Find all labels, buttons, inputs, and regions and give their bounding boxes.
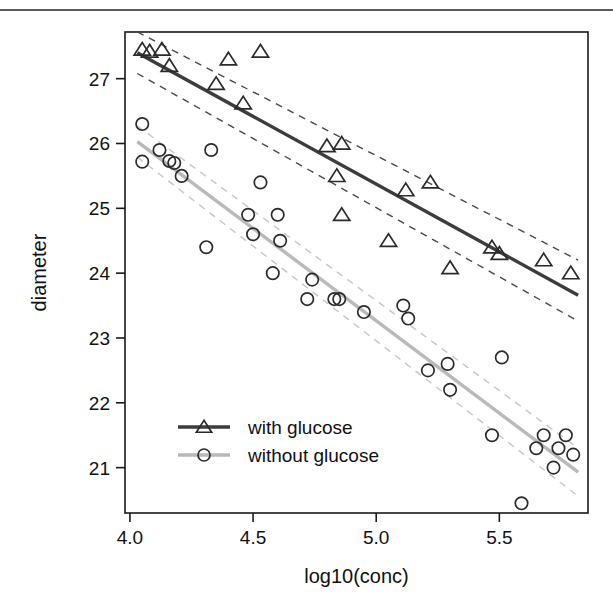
y-axis-tick-label: 23 — [89, 328, 110, 349]
y-axis-tick-label: 24 — [89, 263, 111, 284]
data-point-triangle — [334, 208, 350, 221]
confidence-band-lower — [137, 73, 578, 321]
x-axis-tick-label: 5.0 — [363, 527, 389, 548]
data-point-circle — [515, 497, 527, 509]
data-point-circle — [444, 384, 456, 396]
data-point-triangle — [334, 136, 350, 149]
data-point-triangle — [380, 234, 396, 247]
data-point-circle — [267, 267, 279, 279]
confidence-band-upper — [137, 32, 578, 260]
data-point-triangle — [220, 52, 236, 65]
data-point-triangle — [398, 183, 414, 196]
y-axis-tick-label: 25 — [89, 198, 110, 219]
data-point-circle — [402, 312, 414, 324]
data-point-circle — [136, 118, 148, 130]
data-point-triangle — [536, 253, 552, 266]
data-point-circle — [153, 144, 165, 156]
data-point-triangle — [329, 169, 345, 182]
data-point-circle — [271, 209, 283, 221]
y-axis-tick-label: 27 — [89, 69, 110, 90]
data-point-triangle — [134, 42, 150, 55]
data-point-circle — [242, 209, 254, 221]
x-axis-tick-label: 4.0 — [117, 527, 143, 548]
data-point-circle — [547, 461, 559, 473]
data-point-circle — [274, 235, 286, 247]
data-point-circle — [422, 364, 434, 376]
data-point-circle — [441, 358, 453, 370]
y-axis-tick-label: 22 — [89, 393, 110, 414]
x-axis-tick-label: 4.5 — [240, 527, 266, 548]
data-point-circle — [530, 442, 542, 454]
chart-figure: 212223242526274.04.55.05.5log10(conc)dia… — [0, 0, 613, 605]
figure-page: 212223242526274.04.55.05.5log10(conc)dia… — [0, 0, 613, 605]
data-point-circle — [397, 299, 409, 311]
data-point-triangle — [252, 44, 268, 57]
legend-label: without glucose — [247, 445, 379, 466]
data-point-triangle — [208, 77, 224, 90]
data-point-circle — [205, 144, 217, 156]
data-point-circle — [254, 176, 266, 188]
plot-frame — [125, 32, 588, 513]
data-point-triangle — [442, 261, 458, 274]
data-point-circle — [537, 429, 549, 441]
data-point-triangle — [422, 175, 438, 188]
data-point-circle — [486, 429, 498, 441]
legend-label: with glucose — [247, 417, 353, 438]
data-point-circle — [552, 442, 564, 454]
y-axis-tick-label: 21 — [89, 458, 110, 479]
x-axis-tick-label: 5.5 — [486, 527, 512, 548]
scatter-plot-svg: 212223242526274.04.55.05.5log10(conc)dia… — [0, 0, 613, 605]
data-point-triangle — [563, 266, 579, 279]
data-point-circle — [306, 273, 318, 285]
x-axis-title: log10(conc) — [304, 565, 409, 587]
data-point-circle — [301, 293, 313, 305]
data-point-circle — [200, 241, 212, 253]
y-axis-title: diameter — [28, 233, 50, 311]
y-axis-tick-label: 26 — [89, 133, 110, 154]
data-point-circle — [496, 351, 508, 363]
data-point-circle — [567, 448, 579, 460]
